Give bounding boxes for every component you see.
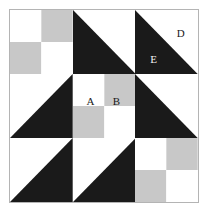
quilt-cell-r1c2 [73,10,136,74]
quilt-cell-shape-hst [10,74,73,138]
quilt-cell-r3c2 [73,138,136,202]
quilt-cell-shape-hst [73,138,136,202]
quilt-cell-r3c1 [10,138,73,202]
quilt-cell-shape-hst [10,138,73,202]
patch-label-e: E [150,54,157,65]
patch-label-d: D [177,28,185,39]
quilt-cell-shape-hst [135,10,198,74]
quilt-cell-shape-hst [135,74,198,138]
quilt-cell-r1c1 [10,10,73,74]
quilt-cell-shape-hst [73,10,136,74]
quilt-block-figure: DEAB [0,0,207,214]
quilt-cell-r2c3 [135,74,198,138]
quilt-cell-shape-four-patch [73,74,136,138]
quilt-cell-r3c3 [135,138,198,202]
quilt-cell-r1c3: DE [135,10,198,74]
patch-label-b: B [113,96,121,107]
patch-label-a: A [86,96,94,107]
quilt-cell-shape-four-patch [10,10,73,74]
quilt-cell-shape-four-patch [135,138,198,202]
quilt-block-grid: DEAB [9,9,199,203]
quilt-cell-r2c2: AB [73,74,136,138]
quilt-cell-r2c1 [10,74,73,138]
